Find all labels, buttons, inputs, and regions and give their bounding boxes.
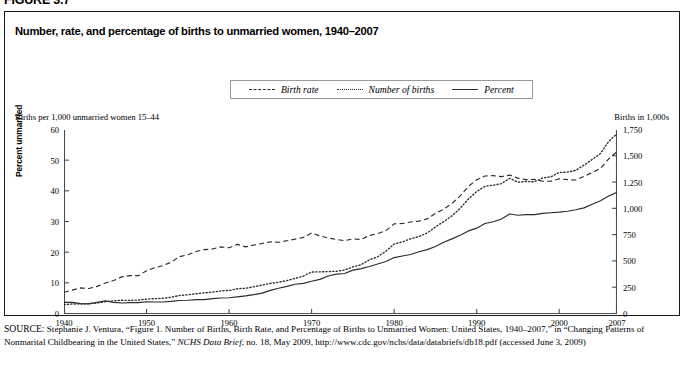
source-prefix: SOURCE: bbox=[4, 323, 45, 334]
legend-label-number-of-births: Number of births bbox=[369, 84, 435, 95]
y-axis-right-tick-label: 1,250 bbox=[623, 178, 642, 188]
series-line-number-of-births bbox=[64, 134, 617, 305]
legend-item-number-of-births: Number of births bbox=[337, 84, 435, 95]
figure-title: Number, rate, and percentage of births t… bbox=[15, 25, 379, 37]
chart-plot-area: 010203040506002505007501,0001,2501,5001,… bbox=[64, 130, 617, 314]
source-journal-title: NCHS Data Brief bbox=[178, 337, 242, 347]
legend-label-percent: Percent bbox=[484, 84, 513, 95]
dashed-line-icon bbox=[249, 86, 275, 93]
y-axis-right-tick-label: 750 bbox=[623, 230, 636, 240]
y-axis-left-tick-label: 50 bbox=[50, 156, 59, 166]
y-axis-left-tick-label: 20 bbox=[50, 248, 59, 258]
source-text-part2: , no. 18, May 2009, http://www.cdc.gov/n… bbox=[242, 337, 586, 347]
y-axis-left-tick-label: 30 bbox=[50, 217, 59, 227]
solid-line-icon bbox=[452, 86, 478, 93]
legend-item-percent: Percent bbox=[452, 84, 513, 95]
series-line-percent bbox=[64, 192, 617, 304]
source-note: SOURCE: Stephanie J. Ventura, “Figure 1.… bbox=[4, 322, 676, 349]
legend-label-birth-rate: Birth rate bbox=[281, 84, 319, 95]
figure-page: FIGURE 3.7 Number, rate, and percentage … bbox=[0, 0, 686, 373]
y-axis-right-tick-label: 250 bbox=[623, 283, 636, 293]
y-axis-right-tick-label: 1,000 bbox=[623, 204, 642, 214]
figure-panel: Number, rate, and percentage of births t… bbox=[4, 11, 680, 316]
left-axis-caption: Births per 1,000 unmarried women 15–44 bbox=[15, 112, 159, 122]
y-axis-right-tick-label: 1,750 bbox=[623, 125, 642, 135]
legend-item-birth-rate: Birth rate bbox=[249, 84, 319, 95]
chart-legend: Birth rate Number of births Percent bbox=[230, 80, 533, 99]
y-axis-left-tick-label: 10 bbox=[50, 278, 59, 288]
chart-svg bbox=[64, 130, 617, 314]
dotted-line-icon bbox=[337, 86, 363, 93]
y-axis-left-tick-label: 40 bbox=[50, 186, 59, 196]
right-axis-caption: Births in 1,000s bbox=[614, 112, 669, 122]
left-axis-rotated-title: Percent unmarried bbox=[14, 105, 24, 177]
y-axis-left-tick-label: 60 bbox=[50, 125, 59, 135]
y-axis-right-tick-label: 500 bbox=[623, 256, 636, 266]
figure-number-label: FIGURE 3.7 bbox=[4, 0, 70, 7]
y-axis-right-tick-label: 1,500 bbox=[623, 151, 642, 161]
